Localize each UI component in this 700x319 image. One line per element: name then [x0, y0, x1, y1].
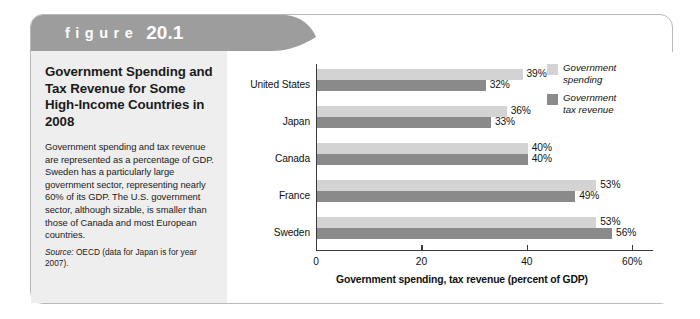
bar-chart-plot: 0204060%Government spending, tax revenue… — [227, 52, 673, 303]
figure-title: Government Spending and Tax Revenue for … — [45, 64, 215, 130]
bar-tax-revenue — [317, 117, 491, 128]
legend-swatch-icon — [547, 94, 558, 105]
category-label: France — [227, 190, 310, 201]
figure-caption: Government spending and tax revenue are … — [45, 141, 215, 242]
bar-value-label: 32% — [490, 79, 510, 90]
x-axis-title: Government spending, tax revenue (percen… — [336, 274, 588, 285]
x-axis-tick — [527, 245, 528, 250]
figure-source-label: Source: — [45, 247, 74, 257]
bar-spending — [317, 143, 528, 154]
bar-value-label: 53% — [600, 179, 620, 190]
bar-value-label: 33% — [495, 116, 515, 127]
x-axis-tick-label: 0 — [313, 256, 319, 267]
bar-tax-revenue — [317, 191, 575, 202]
legend-swatch-icon — [547, 64, 558, 75]
legend-label: Government spending — [563, 62, 616, 85]
category-label: United States — [227, 79, 310, 90]
bar-spending — [317, 217, 596, 228]
figure-text-block: Government Spending and Tax Revenue for … — [31, 51, 227, 303]
figure-banner: figure20.1 — [31, 15, 316, 51]
bar-value-label: 40% — [532, 142, 552, 153]
x-axis-tick — [632, 245, 633, 250]
x-axis-line — [316, 250, 653, 251]
bar-tax-revenue — [317, 80, 486, 91]
bar-value-label: 49% — [579, 190, 599, 201]
figure-banner-text: figure20.1 — [65, 21, 183, 43]
bar-spending — [317, 106, 507, 117]
figure-banner-word: figure — [65, 25, 138, 41]
category-label: Japan — [227, 116, 310, 127]
x-axis-tick-label: 60% — [622, 256, 642, 267]
x-axis-tick-label: 20 — [416, 256, 427, 267]
bar-spending — [317, 180, 596, 191]
x-axis-tick — [421, 245, 422, 250]
bar-value-label: 56% — [616, 227, 636, 238]
category-label: Sweden — [227, 227, 310, 238]
figure-container: figure20.1 Government Spending and Tax R… — [0, 0, 700, 319]
figure-banner-number: 20.1 — [146, 22, 183, 43]
legend-label: Government tax revenue — [563, 92, 616, 115]
chart-area: 0204060%Government spending, tax revenue… — [227, 52, 673, 303]
bar-tax-revenue — [317, 228, 612, 239]
category-label: Canada — [227, 153, 310, 164]
bar-value-label: 39% — [527, 68, 547, 79]
bar-value-label: 36% — [511, 105, 531, 116]
bar-value-label: 53% — [600, 216, 620, 227]
bar-tax-revenue — [317, 154, 528, 165]
bar-value-label: 40% — [532, 153, 552, 164]
x-axis-tick-label: 40 — [521, 256, 532, 267]
figure-source: Source: OECD (data for Japan is for year… — [45, 247, 215, 269]
